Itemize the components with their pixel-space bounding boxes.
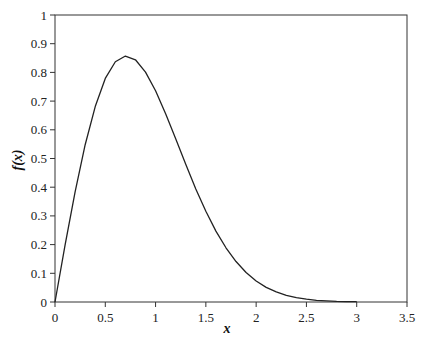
x-tick-label: 3.5	[399, 310, 415, 325]
x-tick-label: 1	[152, 310, 159, 325]
x-axis-title: x	[223, 321, 231, 336]
x-tick-label: 3	[353, 310, 360, 325]
x-tick-label: 2.5	[298, 310, 314, 325]
y-tick-label: 0	[41, 295, 48, 310]
x-tick-label: 0	[52, 310, 59, 325]
x-tick-label: 0.5	[97, 310, 113, 325]
y-axis-title: f(x)	[10, 150, 26, 171]
chart: 00.511.522.533.5 00.10.20.30.40.50.60.70…	[0, 0, 422, 349]
x-tick-label: 1.5	[198, 310, 214, 325]
x-tick-label: 2	[253, 310, 260, 325]
density-curve	[55, 56, 357, 302]
y-axis-ticks: 00.10.20.30.40.50.60.70.80.91	[31, 8, 55, 310]
y-tick-label: 0.7	[31, 94, 48, 109]
y-tick-label: 0.6	[31, 122, 48, 137]
y-tick-label: 0.9	[31, 36, 47, 51]
plot-frame	[55, 15, 407, 302]
y-tick-label: 0.8	[31, 65, 47, 80]
y-tick-label: 0.3	[31, 208, 47, 223]
y-tick-label: 1	[41, 8, 48, 23]
x-axis-ticks: 00.511.522.533.5	[52, 302, 415, 325]
y-tick-label: 0.5	[31, 151, 47, 166]
y-tick-label: 0.1	[31, 266, 47, 281]
y-tick-label: 0.4	[31, 180, 48, 195]
y-tick-label: 0.2	[31, 237, 47, 252]
